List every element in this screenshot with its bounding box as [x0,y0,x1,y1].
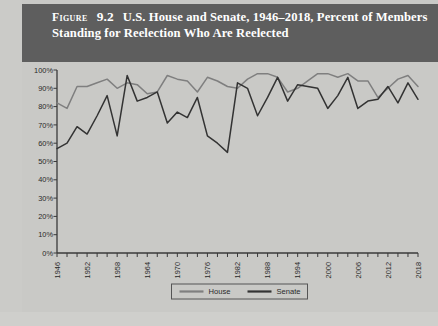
line-chart: 0%10%20%30%40%50%60%70%80%90%100% 194619… [22,62,438,308]
y-tick-label: 40% [38,175,53,184]
y-tick-label: 50% [38,157,53,166]
page-bottom-margin [0,312,438,326]
x-axis-tick-labels: 1946195219581964197019761982198819942000… [53,262,423,278]
x-tick-label: 1994 [293,262,302,278]
y-tick-label: 30% [38,194,53,203]
y-tick-label: 70% [38,121,53,130]
x-tick-label: 1970 [173,262,182,278]
figure-header: Figure9.2U.S. House and Senate, 1946–201… [22,4,438,62]
x-tick-label: 1988 [263,262,272,278]
series-line-senate [57,75,418,152]
x-tick-label: 1946 [53,262,62,278]
y-tick-label: 10% [38,230,53,239]
x-tick-label: 1958 [113,262,122,278]
legend-label-house: House [209,287,231,296]
x-tick-label: 1976 [203,262,212,278]
chart-plot-area: 0%10%20%30%40%50%60%70%80%90%100% 194619… [22,62,438,308]
figure-number: 9.2 [97,9,114,24]
x-tick-label: 2000 [324,262,333,278]
y-tick-label: 60% [38,139,53,148]
y-tick-label: 90% [38,84,53,93]
figure-label: Figure [52,11,88,24]
figure-card: Figure9.2U.S. House and Senate, 1946–201… [0,0,438,326]
y-tick-label: 20% [38,212,53,221]
x-tick-label: 2006 [354,262,363,278]
chart-legend: HouseSenate [172,284,308,299]
x-tick-label: 2018 [414,262,423,278]
x-tick-label: 2012 [384,262,393,278]
x-tick-label: 1952 [83,262,92,278]
y-tick-label: 0% [42,249,53,258]
y-tick-label: 100% [34,66,53,75]
x-tick-label: 1982 [233,262,242,278]
page-left-margin [0,0,22,326]
chart-series-group [57,74,418,153]
y-tick-label: 80% [38,102,53,111]
x-tick-label: 1964 [143,262,152,278]
legend-label-senate: Senate [277,287,301,296]
figure-caption: Figure9.2U.S. House and Senate, 1946–201… [22,10,430,40]
y-axis-tick-labels: 0%10%20%30%40%50%60%70%80%90%100% [34,66,53,258]
